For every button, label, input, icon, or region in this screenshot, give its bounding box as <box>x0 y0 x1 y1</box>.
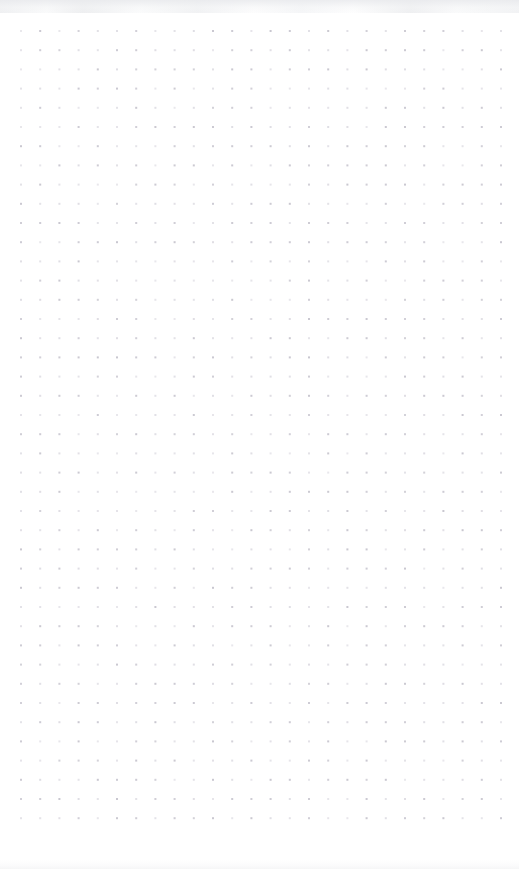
scan-edge-bottom <box>0 860 519 869</box>
dot-grid-canvas <box>0 0 519 869</box>
scan-edge-top <box>0 0 519 13</box>
dot-grid-svg <box>0 0 519 869</box>
dot-grid-page <box>0 0 519 869</box>
